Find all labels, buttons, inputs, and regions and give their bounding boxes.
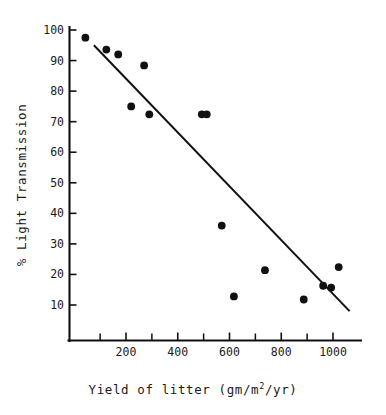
x-tick-label-200: 200 [116, 345, 137, 359]
data-point [335, 263, 343, 271]
y-tick-label-90: 90 [50, 54, 64, 68]
y-tick-label-20: 20 [50, 267, 64, 281]
y-tick-label-100: 100 [43, 23, 64, 37]
x-tick-label-600: 600 [219, 345, 240, 359]
x-tick-label-800: 800 [271, 345, 292, 359]
y-axis-title: % Light Transmission [14, 104, 29, 267]
y-tick-label-80: 80 [50, 84, 64, 98]
x-tick-label-1000: 1000 [319, 345, 347, 359]
x-axis-title: Yield of litter (gm/m2/yr) [89, 381, 298, 397]
y-tick-label-30: 30 [50, 237, 64, 251]
x-axis-title-after: /yr) [265, 382, 298, 397]
data-point [81, 34, 89, 42]
data-point [218, 222, 226, 230]
data-point [300, 296, 308, 304]
x-axis-title-before: Yield of litter (gm/m [89, 382, 260, 397]
data-point [319, 282, 327, 290]
data-point [140, 62, 148, 70]
svg-text:Yield of litter (gm/m2/yr): Yield of litter (gm/m2/yr) [89, 381, 298, 397]
x-tick-label-400: 400 [167, 345, 188, 359]
data-point [127, 102, 135, 110]
data-point [102, 46, 110, 54]
data-point [203, 110, 211, 118]
y-tick-label-60: 60 [50, 145, 64, 159]
data-point [261, 266, 269, 274]
y-tick-label-70: 70 [50, 115, 64, 129]
scatter-plot-figure: 102030405060708090100 2004006008001000 %… [0, 0, 386, 415]
data-point [327, 284, 335, 292]
plot-canvas: 102030405060708090100 2004006008001000 %… [0, 0, 386, 415]
y-tick-label-50: 50 [50, 176, 64, 190]
data-point [230, 293, 238, 301]
data-point [145, 110, 153, 118]
y-tick-label-40: 40 [50, 206, 64, 220]
y-tick-label-10: 10 [50, 298, 64, 312]
data-point [114, 51, 122, 59]
